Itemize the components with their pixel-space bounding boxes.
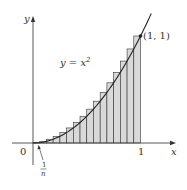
- riemann-rectangle: [134, 36, 141, 143]
- riemann-rectangle: [127, 49, 134, 143]
- width-pointer-arrow-icon: [38, 145, 41, 150]
- x-axis-label: x: [171, 146, 177, 157]
- width-label-numerator: 1: [42, 161, 46, 169]
- point-marker: [139, 34, 143, 38]
- riemann-rectangle: [87, 109, 94, 143]
- tick-one-label: 1: [138, 146, 144, 157]
- y-axis-label: y: [23, 13, 30, 24]
- riemann-sum-diagram: y x 0 1 (1, 1) y = x2 1 n: [0, 0, 187, 190]
- riemann-rectangles: [33, 36, 141, 143]
- origin-label: 0: [20, 146, 26, 157]
- riemann-rectangle: [114, 72, 121, 143]
- riemann-rectangle: [80, 116, 87, 143]
- riemann-rectangle: [120, 61, 127, 143]
- y-axis-arrow-icon: [31, 16, 35, 22]
- point-label: (1, 1): [143, 30, 170, 41]
- x-axis-arrow-icon: [170, 141, 176, 145]
- width-label-denominator: n: [41, 170, 46, 178]
- width-pointer-line: [39, 147, 43, 160]
- curve-label: y = x2: [59, 56, 91, 68]
